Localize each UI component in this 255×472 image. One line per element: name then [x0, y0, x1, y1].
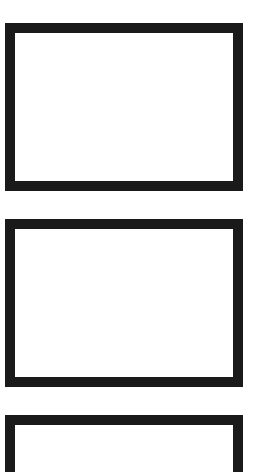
empty-frame-3: [5, 415, 243, 472]
canvas: [0, 0, 255, 472]
empty-frame-2: [5, 219, 243, 387]
empty-frame-1: [5, 23, 243, 191]
